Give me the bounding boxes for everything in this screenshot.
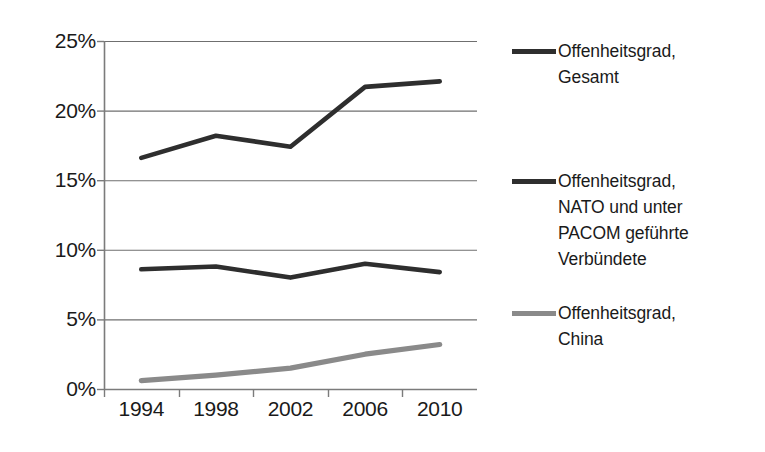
plot-area: 0%5%10%15%20%25% 19941998200220062010 [0, 0, 500, 452]
x-tick-label: 1994 [101, 398, 181, 419]
legend-item-label: Offenheitsgrad, Gesamt [558, 38, 676, 90]
y-tick-marks [97, 42, 104, 390]
legend-line-swatch [512, 179, 556, 184]
y-tick-label: 15% [26, 169, 96, 190]
series-line-2 [141, 264, 439, 278]
legend-item-label: Offenheitsgrad, China [558, 300, 676, 352]
y-tick-label: 20% [26, 100, 96, 121]
series-line-3 [141, 345, 439, 381]
line-chart: 0%5%10%15%20%25% 19941998200220062010 Of… [0, 0, 765, 452]
y-tick-label: 10% [26, 239, 96, 260]
x-axis-tick-labels: 19941998200220062010 [0, 398, 500, 438]
y-tick-label: 5% [26, 308, 96, 329]
x-tick-label: 2010 [400, 398, 480, 419]
legend-item[interactable]: Offenheitsgrad, China [512, 300, 765, 352]
legend-item[interactable]: Offenheitsgrad, NATO und unter PACOM gef… [512, 168, 765, 272]
series-line-1 [141, 81, 439, 157]
x-tick-label: 2002 [251, 398, 331, 419]
data-series-group [141, 81, 439, 380]
y-tick-label: 25% [26, 30, 96, 51]
x-tick-label: 1998 [176, 398, 256, 419]
legend-item-label: Offenheitsgrad, NATO und unter PACOM gef… [558, 168, 689, 272]
legend-item[interactable]: Offenheitsgrad, Gesamt [512, 38, 765, 90]
y-axis-tick-labels: 0%5%10%15%20%25% [20, 0, 96, 452]
gridlines [104, 42, 477, 390]
axis-lines [104, 41, 477, 390]
x-tick-label: 2006 [325, 398, 405, 419]
legend-line-swatch [512, 311, 556, 316]
y-tick-label: 0% [26, 378, 96, 399]
legend-line-swatch [512, 49, 556, 54]
chart-legend: Offenheitsgrad, GesamtOffenheitsgrad, NA… [512, 0, 765, 452]
